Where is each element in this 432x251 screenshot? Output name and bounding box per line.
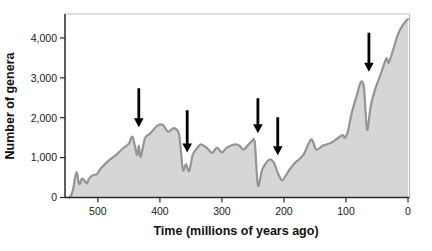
y-tick-label: 3,000 — [31, 72, 57, 84]
y-axis: 01,0002,0003,0004,000 — [31, 14, 65, 203]
x-tick-label: 100 — [337, 205, 355, 217]
diversity-area-series — [69, 19, 408, 197]
mass-extinction-arrow-icon — [273, 117, 283, 155]
mass-extinction-arrow-icon — [182, 110, 192, 152]
x-tick-label: 300 — [213, 205, 231, 217]
x-tick-label: 200 — [275, 205, 293, 217]
x-tick-label: 500 — [89, 205, 107, 217]
y-tick-label: 4,000 — [31, 32, 57, 44]
y-tick-label: 1,000 — [31, 151, 57, 163]
mass-extinction-arrow-icon — [253, 98, 263, 133]
x-axis: 5004003002001000 — [65, 198, 411, 217]
mass-extinction-arrow-icon — [364, 33, 374, 72]
diversity-chart-screenshot: 5004003002001000 01,0002,0003,0004,000 T… — [0, 0, 432, 251]
x-tick-label: 400 — [151, 205, 169, 217]
y-tick-label: 2,000 — [31, 112, 57, 124]
mass-extinction-arrow-icon — [134, 88, 144, 127]
x-axis-title: Time (millions of years ago) — [153, 224, 318, 238]
x-tick-label: 0 — [405, 205, 411, 217]
y-axis-title: Number of genera — [3, 51, 17, 159]
genera-over-time-chart: 5004003002001000 01,0002,0003,0004,000 T… — [0, 0, 432, 251]
diversity-area-fill — [69, 19, 408, 197]
y-tick-label: 0 — [51, 191, 57, 203]
